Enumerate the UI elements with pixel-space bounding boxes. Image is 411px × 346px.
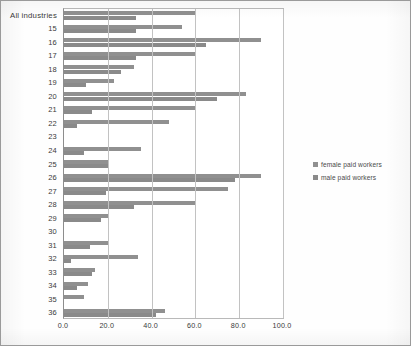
bar-male [64, 83, 86, 87]
y-axis-tick-label: 35 [48, 294, 57, 303]
y-axis-tick-label: 19 [48, 78, 57, 87]
bar-male [64, 110, 92, 114]
y-axis-tick-label: 17 [48, 51, 57, 60]
bar-male [64, 272, 92, 276]
y-axis-tick-label: 32 [48, 254, 57, 263]
gridline [195, 9, 196, 318]
y-axis-tick-label: 34 [48, 281, 57, 290]
bar-male [64, 43, 206, 47]
plot-area [63, 8, 284, 319]
x-axis-tick-label: 0.0 [58, 321, 69, 330]
chart-figure: All industries15161718192021222324252627… [0, 0, 411, 346]
y-axis-tick-label: 22 [48, 118, 57, 127]
y-axis-tick-label: 29 [48, 213, 57, 222]
y-axis-labels: All industries15161718192021222324252627… [1, 8, 61, 319]
bar-male [64, 29, 136, 33]
bar-row [64, 252, 283, 266]
bar-row [64, 50, 283, 64]
bar-row [64, 266, 283, 280]
legend-swatch-icon [313, 175, 318, 180]
bar-male [64, 124, 77, 128]
bar-male [64, 97, 217, 101]
bar-male [64, 191, 106, 195]
y-axis-tick-label: 33 [48, 267, 57, 276]
bar-row [64, 77, 283, 91]
bar-row [64, 36, 283, 50]
bar-female [64, 120, 169, 124]
x-axis-labels: 0.020.040.060.080.0100.0 [63, 321, 284, 335]
bar-row [64, 158, 283, 172]
y-axis-tick-label: 36 [48, 308, 57, 317]
y-axis-tick-label: 27 [48, 186, 57, 195]
bar-male [64, 164, 108, 168]
chart-legend: female paid workers male paid workers [313, 161, 405, 187]
legend-item-female: female paid workers [313, 161, 405, 168]
y-axis-tick-label: 20 [48, 91, 57, 100]
bar-row [64, 9, 283, 23]
x-axis-tick-label: 40.0 [143, 321, 158, 330]
y-axis-tick-label: All industries [10, 10, 57, 19]
legend-label-female: female paid workers [321, 161, 382, 168]
bar-male [64, 70, 121, 74]
bar-male [64, 16, 136, 20]
bar-female [64, 295, 84, 299]
bar-row [64, 198, 283, 212]
bar-rows [64, 9, 283, 318]
bar-row [64, 306, 283, 320]
legend-swatch-icon [313, 162, 318, 167]
bar-male [64, 286, 77, 290]
y-axis-tick-label: 21 [48, 105, 57, 114]
legend-label-male: male paid workers [321, 174, 376, 181]
bar-row [64, 104, 283, 118]
legend-item-male: male paid workers [313, 174, 405, 181]
bar-row [64, 63, 283, 77]
y-axis-tick-label: 15 [48, 24, 57, 33]
bar-female [64, 255, 138, 259]
bar-row [64, 23, 283, 37]
y-axis-tick-label: 16 [48, 37, 57, 46]
bar-row [64, 293, 283, 307]
x-axis-tick-label: 80.0 [231, 321, 246, 330]
bar-row [64, 279, 283, 293]
bar-row [64, 225, 283, 239]
y-axis-tick-label: 23 [48, 132, 57, 141]
bar-row [64, 117, 283, 131]
bar-row [64, 171, 283, 185]
x-axis-tick-label: 60.0 [187, 321, 202, 330]
bar-male [64, 205, 134, 209]
bar-male [64, 259, 71, 263]
bar-male [64, 151, 84, 155]
gridline [283, 9, 284, 318]
bar-row [64, 212, 283, 226]
bar-male [64, 218, 101, 222]
gridline [152, 9, 153, 318]
y-axis-tick-label: 28 [48, 200, 57, 209]
bar-row [64, 185, 283, 199]
bar-row [64, 90, 283, 104]
bar-row [64, 239, 283, 253]
x-axis-tick-label: 100.0 [273, 321, 292, 330]
y-axis-tick-label: 25 [48, 159, 57, 168]
x-axis-tick-label: 20.0 [99, 321, 114, 330]
y-axis-tick-label: 31 [48, 240, 57, 249]
bar-male [64, 245, 90, 249]
bar-male [64, 56, 136, 60]
bar-male [64, 178, 235, 182]
y-axis-tick-label: 24 [48, 145, 57, 154]
gridline [239, 9, 240, 318]
y-axis-tick-label: 26 [48, 173, 57, 182]
y-axis-tick-label: 18 [48, 64, 57, 73]
gridline [108, 9, 109, 318]
bar-row [64, 144, 283, 158]
y-axis-tick-label: 30 [48, 227, 57, 236]
bar-row [64, 131, 283, 145]
bar-male [64, 313, 156, 317]
